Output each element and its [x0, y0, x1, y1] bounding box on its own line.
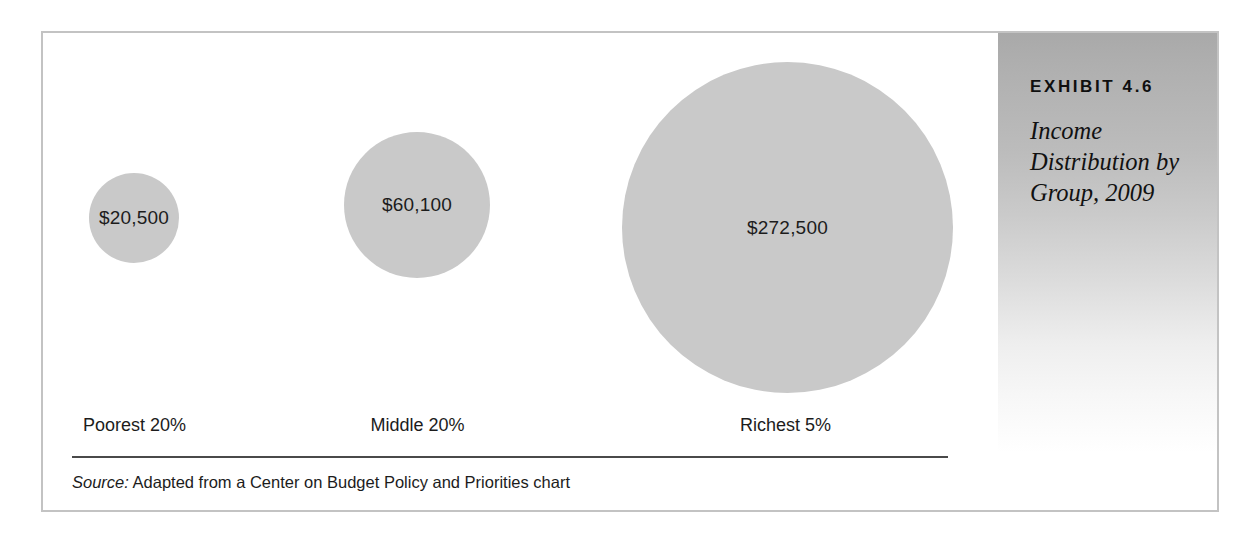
bubble-value-middle-20: $60,100 — [382, 194, 452, 216]
bubble-value-richest-5: $272,500 — [747, 217, 828, 239]
source-text: Adapted from a Center on Budget Policy a… — [129, 473, 570, 491]
category-label-richest-5: Richest 5% — [704, 415, 867, 436]
bubble-middle-20: $60,100 — [344, 132, 490, 278]
category-label-middle-20: Middle 20% — [336, 415, 499, 436]
source-prefix: Source: — [72, 473, 129, 491]
bubble-poorest-20: $20,500 — [89, 173, 179, 263]
figure-frame: $20,500 $60,100 $272,500 Poorest 20% Mid… — [41, 31, 1219, 512]
exhibit-number: EXHIBIT 4.6 — [1030, 77, 1154, 97]
bubble-chart: $20,500 $60,100 $272,500 Poorest 20% Mid… — [43, 33, 998, 510]
exhibit-figure: $20,500 $60,100 $272,500 Poorest 20% Mid… — [0, 0, 1256, 540]
bubble-richest-5: $272,500 — [622, 62, 953, 393]
category-label-poorest-20: Poorest 20% — [53, 415, 216, 436]
axis-rule — [72, 456, 948, 458]
exhibit-title: Income Distribution by Group, 2009 — [1030, 115, 1210, 208]
source-note: Source: Adapted from a Center on Budget … — [72, 473, 570, 492]
bubble-value-poorest-20: $20,500 — [99, 207, 169, 229]
caption-panel: EXHIBIT 4.6 Income Distribution by Group… — [998, 33, 1217, 510]
